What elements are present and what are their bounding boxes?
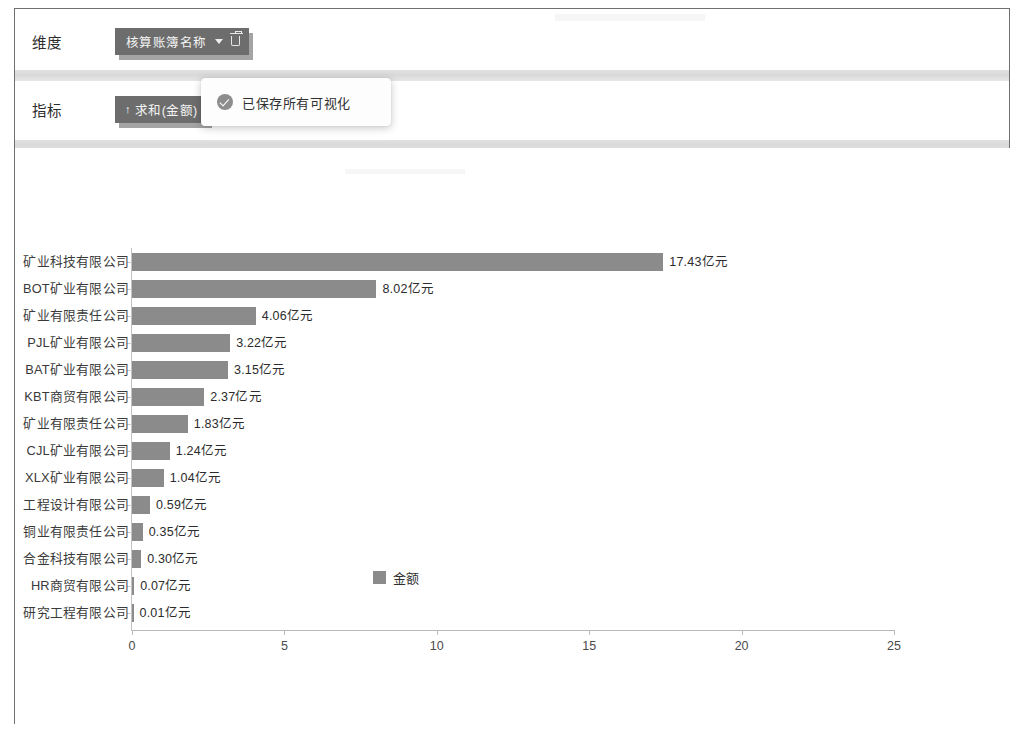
visualization-config-panel: 维度 核算账簿名称 指标 ↑ 求和(金额) 已保存所有可视化 — [15, 9, 1009, 148]
bar-value-label: 3.15亿元 — [234, 361, 286, 379]
bar-row: PJL矿业有限公司3.22亿元 — [132, 330, 894, 357]
category-label: 研究工程有限公司 — [23, 603, 129, 622]
bar-row: CJL矿业有限公司1.24亿元 — [132, 438, 894, 465]
bar-value-label: 3.22亿元 — [236, 334, 288, 352]
x-axis-tick-mark — [589, 630, 590, 635]
bar[interactable] — [132, 415, 188, 433]
dimension-field-tag[interactable]: 核算账簿名称 — [115, 28, 249, 55]
x-axis-tick-mark — [742, 630, 743, 635]
chart-legend: 金额 — [15, 568, 777, 587]
x-axis-tick-mark — [284, 630, 285, 635]
document-page-frame: 维度 核算账簿名称 指标 ↑ 求和(金额) 已保存所有可视化 — [14, 8, 1010, 724]
bar-value-label: 4.06亿元 — [262, 307, 314, 325]
dimension-field-tag-label: 核算账簿名称 — [126, 32, 206, 51]
x-axis-tick-label: 10 — [430, 639, 444, 653]
dimension-row: 维度 核算账簿名称 — [15, 11, 1009, 71]
x-axis-tick-mark — [132, 630, 133, 635]
bar-chart: 矿业科技有限公司17.43亿元BOT矿业有限公司8.02亿元矿业有限责任公司4.… — [15, 148, 1011, 724]
category-label: BAT矿业有限公司 — [25, 360, 129, 379]
bar[interactable] — [132, 253, 663, 271]
bar-value-label: 1.83亿元 — [194, 415, 246, 433]
bar-row: 矿业有限责任公司1.83亿元 — [132, 411, 894, 438]
category-label: 合金科技有限公司 — [23, 549, 129, 568]
metric-row-label: 指标 — [15, 99, 115, 120]
bar[interactable] — [132, 469, 164, 487]
save-confirmation-message: 已保存所有可视化 — [242, 93, 351, 112]
bar-row: KBT商贸有限公司2.37亿元 — [132, 384, 894, 411]
bar-value-label: 8.02亿元 — [382, 280, 434, 298]
bar-value-label: 0.59亿元 — [156, 496, 208, 514]
bar[interactable] — [132, 442, 170, 460]
sort-ascending-icon[interactable]: ↑ — [125, 104, 131, 115]
metric-row: 指标 ↑ 求和(金额) — [15, 79, 1009, 139]
bar[interactable] — [132, 550, 141, 568]
bar-value-label: 2.37亿元 — [210, 388, 262, 406]
save-confirmation-toast: 已保存所有可视化 — [201, 78, 391, 126]
x-axis-tick-label: 5 — [281, 639, 288, 653]
bar-row: BOT矿业有限公司8.02亿元 — [132, 276, 894, 303]
category-label: 工程设计有限公司 — [23, 495, 129, 514]
category-label: XLX矿业有限公司 — [25, 468, 129, 487]
x-axis-tick-label: 15 — [582, 639, 596, 653]
category-label: 矿业有限责任公司 — [23, 414, 129, 433]
x-axis-line — [131, 630, 895, 631]
chart-container: 矿业科技有限公司17.43亿元BOT矿业有限公司8.02亿元矿业有限责任公司4.… — [15, 148, 1011, 724]
category-label: 铜业有限责任公司 — [23, 522, 129, 541]
bar[interactable] — [132, 307, 256, 325]
bar[interactable] — [132, 604, 134, 622]
metric-field-tag[interactable]: ↑ 求和(金额) — [115, 96, 208, 123]
category-label: BOT矿业有限公司 — [23, 279, 129, 298]
category-label: KBT商贸有限公司 — [24, 387, 129, 406]
legend-label[interactable]: 金额 — [393, 568, 420, 587]
bar-row: 工程设计有限公司0.59亿元 — [132, 492, 894, 519]
bar[interactable] — [132, 334, 230, 352]
bar-value-label: 1.24亿元 — [176, 442, 228, 460]
chevron-down-icon[interactable] — [215, 39, 223, 44]
bar[interactable] — [132, 496, 150, 514]
bar-value-label: 0.01亿元 — [140, 604, 192, 622]
category-label: CJL矿业有限公司 — [26, 441, 129, 460]
bar-value-label: 0.30亿元 — [147, 550, 199, 568]
bar[interactable] — [132, 388, 204, 406]
x-axis-tick-mark — [437, 630, 438, 635]
legend-swatch — [373, 571, 386, 584]
x-axis-tick-label: 20 — [735, 639, 749, 653]
bar-value-label: 0.35亿元 — [149, 523, 201, 541]
bar-row: 矿业有限责任公司4.06亿元 — [132, 303, 894, 330]
category-label: 矿业科技有限公司 — [23, 252, 129, 271]
x-axis-tick-mark — [894, 630, 895, 635]
x-axis-tick-label: 25 — [887, 639, 901, 653]
check-circle-icon — [217, 94, 233, 110]
category-label: 矿业有限责任公司 — [23, 306, 129, 325]
bar-row: XLX矿业有限公司1.04亿元 — [132, 465, 894, 492]
metric-field-tag-label: 求和(金额) — [135, 100, 198, 119]
trash-icon[interactable] — [231, 36, 240, 46]
bar-value-label: 1.04亿元 — [170, 469, 222, 487]
bar-row: 研究工程有限公司0.01亿元 — [132, 600, 894, 627]
category-label: PJL矿业有限公司 — [27, 333, 129, 352]
bar-row: BAT矿业有限公司3.15亿元 — [132, 357, 894, 384]
dimension-row-label: 维度 — [15, 31, 115, 52]
bar-row: 矿业科技有限公司17.43亿元 — [132, 249, 894, 276]
bar[interactable] — [132, 361, 228, 379]
x-axis-tick-label: 0 — [129, 639, 136, 653]
bar[interactable] — [132, 523, 143, 541]
bar[interactable] — [132, 280, 376, 298]
bar-row: 铜业有限责任公司0.35亿元 — [132, 519, 894, 546]
bar-value-label: 17.43亿元 — [669, 253, 728, 271]
